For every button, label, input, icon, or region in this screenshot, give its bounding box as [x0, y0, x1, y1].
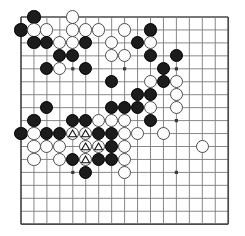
white-stone[interactable]: [118, 23, 131, 36]
star-point: [175, 67, 178, 70]
white-stone[interactable]: [27, 23, 40, 36]
white-stone[interactable]: [196, 140, 209, 153]
star-point: [175, 119, 178, 122]
white-stone[interactable]: [92, 23, 105, 36]
star-point: [175, 171, 178, 174]
white-stone[interactable]: [66, 23, 79, 36]
white-stone[interactable]: [157, 127, 170, 140]
white-stone[interactable]: [27, 140, 40, 153]
white-stone[interactable]: [40, 23, 53, 36]
white-stone[interactable]: [79, 23, 92, 36]
black-stone[interactable]: [27, 36, 40, 49]
white-stone[interactable]: [27, 127, 40, 140]
star-point: [123, 67, 126, 70]
black-stone[interactable]: [14, 127, 27, 140]
white-stone[interactable]: [66, 10, 79, 23]
star-point: [71, 171, 74, 174]
white-stone[interactable]: [27, 153, 40, 166]
black-stone[interactable]: [14, 23, 27, 36]
black-stone[interactable]: [27, 114, 40, 127]
black-stone[interactable]: [144, 23, 157, 36]
star-point: [71, 67, 74, 70]
black-stone[interactable]: [27, 10, 40, 23]
go-board-container: [0, 0, 245, 236]
